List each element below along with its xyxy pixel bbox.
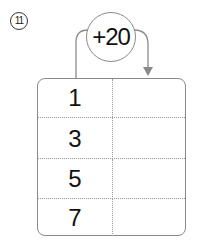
input-cell: 5 [38, 159, 113, 199]
answer-cell[interactable] [113, 118, 185, 159]
input-cell: 1 [38, 79, 113, 117]
table-row: 3 [38, 117, 185, 159]
table-row: 7 [38, 198, 185, 236]
table-row: 1 [38, 79, 185, 117]
operation-bubble: +20 [86, 12, 136, 62]
input-cell: 3 [38, 118, 113, 159]
answer-cell[interactable] [113, 199, 185, 236]
table-row: 5 [38, 158, 185, 199]
function-table: 1 3 5 7 [37, 78, 186, 236]
answer-cell[interactable] [113, 79, 185, 117]
answer-cell[interactable] [113, 159, 185, 199]
input-cell: 7 [38, 199, 113, 236]
